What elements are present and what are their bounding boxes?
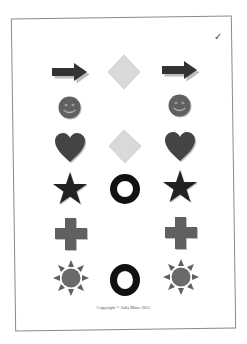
checkmark-icon: ✓ — [214, 31, 222, 42]
copyright-text: Copyright © Julia Moss 2015 — [0, 305, 247, 310]
star-icon — [52, 171, 88, 205]
diamond-icon — [107, 129, 143, 165]
smiley-icon — [167, 93, 193, 119]
ring-icon — [109, 173, 141, 205]
heart-icon — [53, 132, 87, 164]
arrow-right-icon — [51, 62, 91, 84]
heart-icon — [163, 131, 197, 163]
cross-icon — [54, 217, 88, 251]
star-icon — [162, 169, 198, 203]
smiley-icon — [57, 95, 83, 121]
ring-icon — [109, 263, 141, 297]
diamond-icon — [106, 53, 142, 91]
arrow-right-icon — [161, 60, 201, 82]
sun-icon — [162, 258, 200, 296]
cross-icon — [164, 216, 198, 250]
sun-icon — [52, 259, 90, 297]
